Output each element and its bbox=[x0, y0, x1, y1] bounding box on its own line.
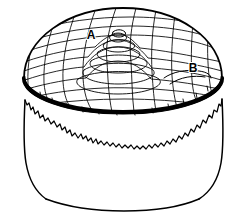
label-a: A bbox=[87, 28, 96, 42]
label-b: B bbox=[189, 61, 198, 75]
surface-mesh-diagram: A B bbox=[0, 0, 246, 215]
diagram-canvas: A B bbox=[0, 0, 246, 215]
